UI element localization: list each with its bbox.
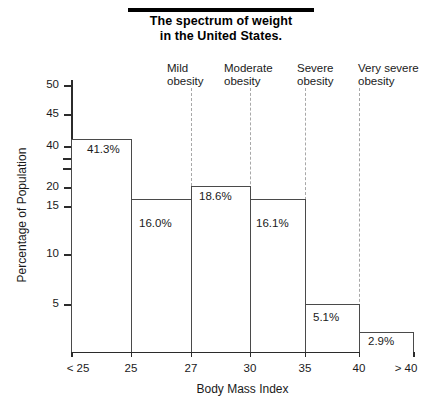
y-tick-label-50: 50 [19, 79, 59, 91]
bar-label-lt25: 41.3% [87, 143, 120, 155]
x-tick-label-35: 35 [299, 362, 312, 374]
bar-chart: 50 45 40 20 15 10 5 Mild obesity Moderat… [0, 0, 435, 404]
x-tick-25 [131, 352, 133, 357]
category-label-severe-obesity-line2: obesity [297, 75, 333, 88]
bar-label-gt40: 2.9% [368, 335, 394, 347]
category-label-mild-obesity-line1: Mild [167, 62, 188, 75]
category-label-mild-obesity-line2: obesity [167, 75, 203, 88]
x-tick-40 [359, 352, 361, 357]
x-axis-title: Body Mass Index [71, 382, 414, 396]
x-tick-label-30: 30 [244, 362, 257, 374]
category-label-very-severe-obesity-line1: Very severe [358, 62, 419, 75]
guide-line-mild-obesity [191, 88, 192, 186]
x-tick-35 [305, 352, 307, 357]
x-tick-gt40 [413, 352, 415, 357]
bar-label-35-40: 5.1% [313, 311, 339, 323]
bar-label-25-27: 16.0% [139, 217, 172, 229]
x-tick-label-25: 25 [125, 362, 138, 374]
category-label-moderate-obesity-line1: Moderate [224, 62, 273, 75]
x-tick-lt25 [71, 352, 73, 357]
x-tick-30 [250, 352, 252, 357]
y-axis-title: Percentage of Population [15, 105, 29, 325]
category-label-very-severe-obesity-line2: obesity [358, 75, 394, 88]
bar-lt25[interactable] [71, 139, 132, 352]
bar-label-30-35: 16.1% [256, 217, 289, 229]
x-tick-label-lt25: < 25 [67, 362, 90, 374]
y-tick-50 [64, 85, 72, 87]
x-tick-label-27: 27 [185, 362, 198, 374]
bar-label-27-30: 18.6% [199, 190, 232, 202]
x-tick-label-40: 40 [353, 362, 366, 374]
guide-line-very-severe-obesity [359, 88, 360, 332]
x-tick-27 [191, 352, 193, 357]
x-tick-label-gt40: > 40 [395, 362, 418, 374]
guide-line-moderate-obesity [250, 88, 251, 199]
category-label-severe-obesity-line1: Severe [297, 62, 333, 75]
bar-27-30[interactable] [191, 186, 251, 352]
category-label-moderate-obesity-line2: obesity [224, 75, 260, 88]
y-tick-45 [64, 114, 72, 116]
